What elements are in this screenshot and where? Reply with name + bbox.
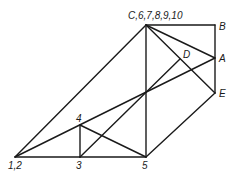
diagram-canvas: C,6,7,8,9,10BADE41,235 — [0, 0, 235, 181]
edge-C-A — [146, 25, 215, 58]
edge-3-D — [80, 59, 180, 157]
node-label-3: 3 — [76, 160, 82, 171]
node-label-E: E — [219, 88, 226, 99]
node-label-C: C,6,7,8,9,10 — [128, 10, 183, 21]
node-label-4: 4 — [76, 113, 82, 124]
edge-group — [15, 25, 215, 157]
node-label-5: 5 — [142, 160, 148, 171]
node-label-D: D — [183, 49, 190, 60]
edge-5-E — [146, 93, 215, 157]
node-label-B: B — [219, 21, 226, 32]
node-label-A: A — [218, 53, 226, 64]
node-label-12: 1,2 — [8, 160, 22, 171]
label-group: C,6,7,8,9,10BADE41,235 — [8, 10, 226, 171]
edge-4-5 — [80, 125, 146, 157]
